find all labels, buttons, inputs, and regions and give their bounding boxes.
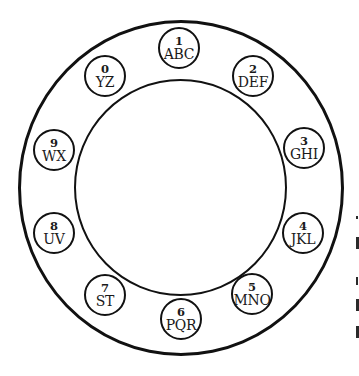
key-digit: 8 [50, 220, 58, 232]
key-letters: UV [43, 232, 64, 247]
key-letters: ST [96, 294, 114, 309]
dial-inner-circle [74, 79, 287, 296]
key-letters: YZ [96, 75, 114, 90]
dial-key-0[interactable]: 0 YZ [84, 55, 126, 97]
dial-key-7[interactable]: 7 ST [84, 274, 126, 316]
key-letters: JKL [291, 232, 315, 247]
key-letters: GHI [290, 147, 318, 162]
dial-key-5[interactable]: 5 MNO [231, 273, 273, 315]
clipped-text-fragment [356, 277, 358, 285]
key-letters: PQR [166, 318, 197, 333]
key-digit: 3 [300, 135, 308, 147]
dial-key-9[interactable]: 9 WX [33, 129, 75, 171]
key-digit: 4 [299, 220, 307, 232]
dial-key-6[interactable]: 6 PQR [160, 298, 202, 340]
dial-key-1[interactable]: 1 ABC [158, 27, 200, 69]
key-letters: DEF [238, 75, 268, 90]
key-letters: WX [42, 149, 66, 164]
key-letters: ABC [164, 47, 194, 62]
clipped-text-fragment [356, 216, 358, 219]
key-digit: 9 [50, 137, 58, 149]
key-digit: 1 [175, 35, 183, 47]
key-digit: 6 [177, 306, 185, 318]
key-digit: 5 [248, 281, 256, 293]
key-digit: 7 [101, 282, 109, 294]
dial-key-8[interactable]: 8 UV [33, 212, 75, 254]
dial-key-2[interactable]: 2 DEF [232, 55, 274, 97]
key-digit: 0 [101, 63, 109, 75]
dial-key-4[interactable]: 4 JKL [282, 212, 324, 254]
key-digit: 2 [249, 63, 257, 75]
key-letters: MNO [233, 293, 270, 308]
dial-key-3[interactable]: 3 GHI [283, 127, 325, 169]
